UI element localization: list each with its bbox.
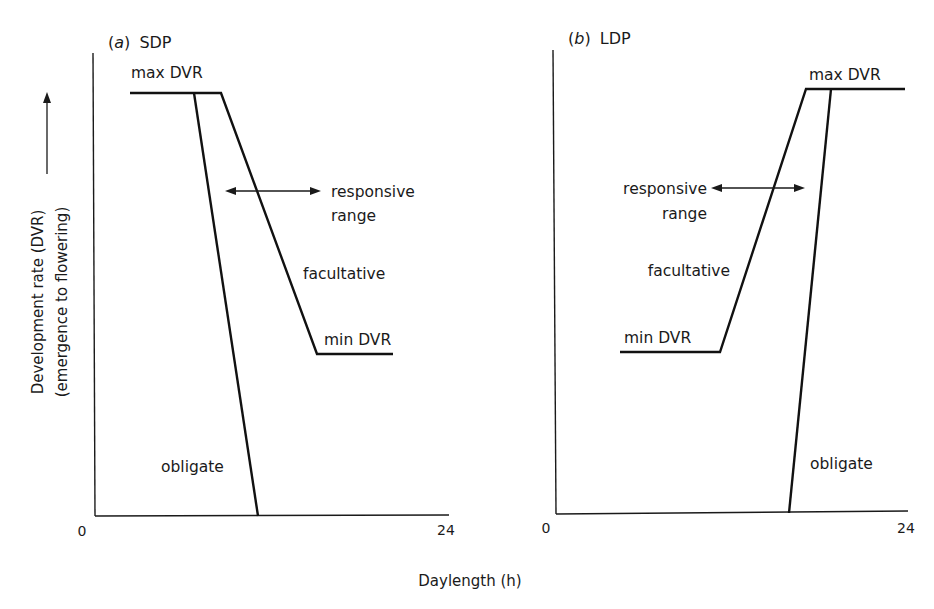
panel-b-x-axis — [556, 511, 908, 514]
panel-b-facultative-label: facultative — [648, 262, 730, 280]
panel-b-ldp: (b) LDP 0 24 max DVR responsive range fa… — [542, 29, 915, 536]
panel-a-obligate-label: obligate — [161, 458, 224, 476]
arrow-left-icon — [711, 184, 722, 192]
panel-a-y-axis — [93, 53, 95, 516]
panel-a-facultative-label: facultative — [303, 265, 385, 283]
panel-b-obligate-curve — [789, 89, 831, 513]
panel-a-responsive-label: responsive — [331, 183, 415, 201]
panel-a-max-dvr-label: max DVR — [131, 64, 203, 82]
y-axis-title-line2: (emergence to flowering) — [53, 207, 71, 398]
panel-a-range-label: range — [331, 207, 376, 225]
y-axis-title-line1: Development rate (DVR) — [29, 210, 47, 395]
panel-a-min-dvr-label: min DVR — [324, 331, 391, 349]
panel-b-y-axis — [553, 50, 556, 514]
photoperiod-response-figure: Development rate (DVR) (emergence to flo… — [0, 0, 934, 609]
panel-a-obligate-curve — [194, 93, 258, 516]
panel-a-x-tick-24: 24 — [437, 522, 455, 538]
arrow-right-icon — [310, 187, 321, 195]
panel-b-title: (b) LDP — [568, 29, 631, 48]
panel-b-min-dvr-label: min DVR — [624, 329, 691, 347]
panel-b-responsive-label: responsive — [623, 180, 707, 198]
panel-b-range-label: range — [662, 205, 707, 223]
panel-b-x-tick-24: 24 — [897, 520, 915, 536]
arrow-up-icon — [43, 92, 51, 103]
arrow-left-icon — [225, 187, 236, 195]
panel-a-title: (a) SDP — [108, 33, 172, 52]
panel-a-x-tick-0: 0 — [78, 523, 87, 539]
panel-b-max-dvr-label: max DVR — [809, 66, 881, 84]
arrow-right-icon — [794, 184, 805, 192]
x-axis-title: Daylength (h) — [418, 572, 521, 590]
panel-a-sdp: (a) SDP 0 24 max DVR responsive range fa… — [78, 33, 455, 539]
panel-b-obligate-label: obligate — [810, 455, 873, 473]
panel-b-x-tick-0: 0 — [542, 520, 551, 536]
y-axis-title: Development rate (DVR) (emergence to flo… — [29, 92, 71, 397]
panel-a-x-axis — [95, 515, 449, 516]
